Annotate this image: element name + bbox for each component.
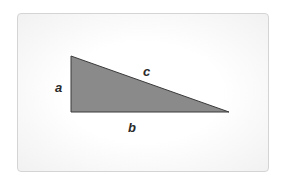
label-b: b [128, 120, 136, 135]
label-c: c [143, 64, 151, 79]
triangle-diagram: a b c [0, 0, 282, 184]
label-a: a [55, 80, 62, 95]
